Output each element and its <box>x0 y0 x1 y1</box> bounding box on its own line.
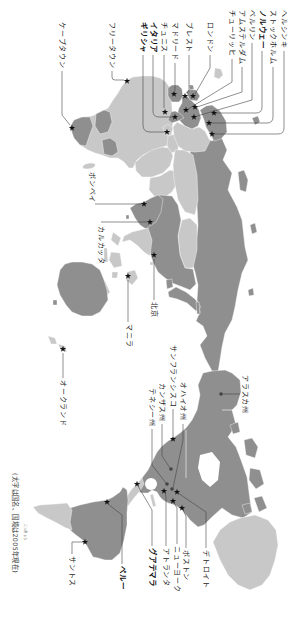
country-australia <box>57 262 108 316</box>
island-borneo <box>109 252 122 268</box>
label-madrid: マドリード <box>171 22 179 61</box>
label-berlin: ベルリン <box>248 10 256 41</box>
leader-cape-town <box>62 71 70 125</box>
map-footnote: (太字は国名、国境は2005年現在) <box>12 473 19 573</box>
island-novaya-zemlya <box>238 170 248 192</box>
region-south-america-north <box>67 487 128 560</box>
label-san-francisco: サンフランシスコ <box>169 345 177 407</box>
island-sri-lanka <box>126 215 129 219</box>
label-beijing: 北京 <box>150 302 158 318</box>
leader-freetown <box>112 71 124 80</box>
label-kansas: カンザス州 <box>158 383 166 422</box>
label-freetown: フリータウン <box>108 22 116 69</box>
label-tunis: チュニス <box>160 22 168 53</box>
label-zurich: チューリッヒ <box>228 10 236 57</box>
island-tasmania <box>53 300 57 305</box>
landmass-north-america <box>124 370 252 527</box>
label-bombay: ボンベイ <box>88 172 96 203</box>
leader-santos <box>72 542 83 554</box>
label-detroit: デトロイト <box>202 550 210 589</box>
label-helsinki: ヘルシンキ <box>280 10 288 49</box>
leader-boston <box>183 510 186 548</box>
label-ohio: オハイオ州 <box>179 382 187 421</box>
region-southeast-asia <box>122 228 152 256</box>
label-alaska: アラスカ州 <box>241 375 249 414</box>
water-gulf-of-mexico <box>145 478 157 490</box>
island-new-siberian <box>248 288 254 296</box>
label-tennessee: テネシー州 <box>148 388 156 427</box>
label-greece: ギリシャ <box>139 22 147 53</box>
dot-marker-icon-alaska <box>219 392 223 396</box>
dot-marker-icon-kansas <box>169 467 173 471</box>
island-sumatra <box>111 232 121 246</box>
island-arctic-1 <box>244 438 258 458</box>
leader-new-york <box>174 503 177 544</box>
country-russia <box>190 134 248 372</box>
country-korea <box>166 279 173 289</box>
label-calcutta: カルカッタ <box>97 226 105 265</box>
label-peru: ペルー <box>118 566 126 589</box>
island-ireland <box>189 85 194 90</box>
world-map <box>0 0 291 629</box>
label-italy: イタリア <box>149 22 157 53</box>
label-santos: サントス <box>68 556 76 587</box>
label-brest: ブレスト <box>185 22 193 53</box>
label-auckland: オークランド <box>59 380 67 427</box>
region-south-america-south <box>33 503 72 530</box>
island-taiwan <box>150 262 153 265</box>
dot-marker-icon-ohio <box>170 487 174 491</box>
label-london: ロンドン <box>206 22 214 53</box>
leader-london <box>195 55 210 94</box>
island-arctic-2 <box>249 468 264 489</box>
label-boston: ボストン <box>182 550 190 581</box>
label-new-york: ニューヨーク <box>173 546 181 593</box>
map-footnote-furigana: こっきょう <box>23 524 27 540</box>
label-guatemala: グアテマラ <box>148 548 156 587</box>
label-cape-town: ケープタウン <box>58 22 66 69</box>
island-arctic-3 <box>254 496 267 512</box>
island-greenland <box>213 515 278 590</box>
label-manila: マニラ <box>125 324 133 347</box>
island-svalbard <box>252 116 260 125</box>
island-madagascar <box>82 162 96 170</box>
leader-brest <box>187 55 189 93</box>
label-atlanta: アトランタ <box>162 548 170 587</box>
island-iceland <box>214 68 223 79</box>
island-nz-south <box>48 336 57 344</box>
island-sulawesi <box>112 272 118 278</box>
label-stockholm: ストックホルム <box>269 10 277 65</box>
label-norway: ノルウェー <box>258 10 266 49</box>
dot-marker-icon-tennessee <box>165 482 169 486</box>
island-cuba <box>150 494 156 507</box>
label-amsterdam: アムステルダム <box>238 10 246 65</box>
country-japan <box>168 287 201 311</box>
island-severnaya <box>250 223 257 234</box>
